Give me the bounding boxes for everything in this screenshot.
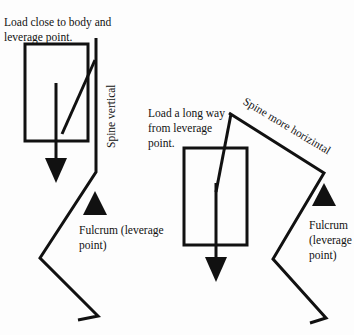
left-spine-label: Spine vertical <box>104 84 118 148</box>
left-figure <box>25 38 98 320</box>
right-arm <box>216 114 231 192</box>
left-load-label-line1: Load close to body and <box>4 15 111 29</box>
lifting-leverage-diagram: Load close to body and leverage point. S… <box>0 0 354 335</box>
right-load-label-line2: from leverage <box>148 121 212 135</box>
left-arm <box>62 60 95 134</box>
right-force-arrow-head <box>205 257 227 282</box>
left-load-label-line2: leverage point. <box>4 30 72 44</box>
left-force-arrow-head <box>45 158 67 183</box>
right-load-label-line3: point. <box>148 136 175 150</box>
right-fulcrum-label-line2: (leverage <box>309 233 352 247</box>
right-load-label-line1: Load a long way <box>148 106 225 120</box>
right-fulcrum-label-line1: Fulcrum <box>309 218 348 232</box>
right-fulcrum-label-line3: point) <box>309 248 336 262</box>
diagram-drawing <box>0 0 354 335</box>
left-fulcrum-triangle <box>83 191 107 215</box>
left-fulcrum-label-line1: Fulcrum (leverage <box>79 223 164 237</box>
left-fulcrum-label-line2: point) <box>79 238 106 252</box>
